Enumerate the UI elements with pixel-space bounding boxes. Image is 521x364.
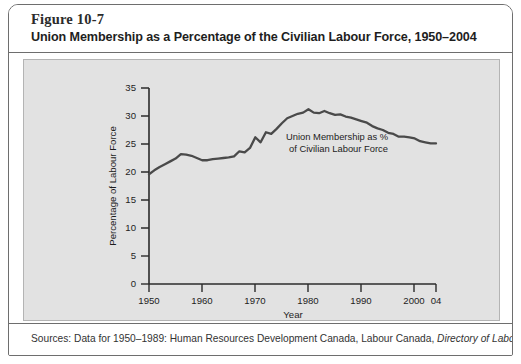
series-annotation: Union Membership as % of Civilian Labour… [286, 131, 388, 154]
x-tick-label: 1970 [244, 295, 265, 306]
x-tick-label: 1990 [350, 295, 371, 306]
x-tick-label: 2000 [403, 295, 424, 306]
source-text: Sources: Data for 1950–1989: Human Resou… [31, 333, 437, 344]
y-tick-label: 5 [131, 250, 136, 261]
chart-panel: 35 30 25 20 15 10 5 0 1950 1 [23, 59, 500, 321]
y-axis-ticks [141, 88, 149, 284]
y-tick-label: 0 [131, 278, 136, 289]
union-membership-line-chart: 35 30 25 20 15 10 5 0 1950 1 [24, 60, 499, 320]
y-tick-label: 20 [125, 166, 136, 177]
y-axis-tick-labels: 35 30 25 20 15 10 5 0 [125, 82, 136, 289]
x-tick-label: 1980 [297, 295, 318, 306]
x-axis-title: Year [283, 309, 303, 320]
y-tick-label: 15 [125, 194, 136, 205]
source-note: Sources: Data for 1950–1989: Human Resou… [31, 333, 513, 344]
y-tick-label: 10 [125, 222, 136, 233]
figure-header: Figure 10-7 Union Membership as a Percen… [9, 5, 512, 53]
y-tick-label: 35 [125, 82, 136, 93]
annotation-line-1: Union Membership as % [286, 131, 388, 142]
y-axis-title: Percentage of Labour Force [107, 126, 118, 245]
x-tick-label: 1950 [138, 295, 159, 306]
annotation-line-2: of Civilian Labour Force [289, 143, 388, 154]
x-axis-tick-labels: 1950 1960 1970 1980 1990 2000 04 [138, 295, 442, 306]
axis-lines [149, 88, 436, 284]
x-tick-label: 1960 [191, 295, 212, 306]
y-tick-label: 30 [125, 110, 136, 121]
x-tick-label: 04 [431, 295, 442, 306]
figure-container: Figure 10-7 Union Membership as a Percen… [8, 4, 513, 356]
source-publication-title: Directory of Labour [437, 333, 513, 344]
y-tick-label: 25 [125, 138, 136, 149]
figure-footer: Sources: Data for 1950–1989: Human Resou… [9, 323, 512, 355]
x-axis-ticks [149, 284, 436, 292]
figure-title: Union Membership as a Percentage of the … [31, 30, 477, 44]
figure-number: Figure 10-7 [31, 11, 104, 28]
